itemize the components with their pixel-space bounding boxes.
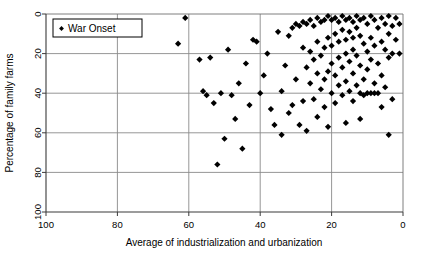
data-point-marker: [332, 100, 338, 106]
data-point-marker: [321, 76, 327, 82]
y-tick-label: 40: [32, 88, 43, 99]
data-point-marker: [353, 82, 359, 88]
data-point-marker: [264, 51, 270, 57]
data-point-marker: [311, 56, 317, 62]
data-point-marker: [357, 62, 363, 68]
data-point-marker: [336, 82, 342, 88]
data-point-marker: [268, 106, 274, 112]
x-tick-label: 0: [400, 219, 405, 230]
data-point-marker: [329, 60, 335, 66]
data-point-marker: [343, 120, 349, 126]
data-point-marker: [314, 15, 320, 21]
data-point-marker: [243, 60, 249, 66]
y-tick-label: 0: [32, 11, 43, 16]
data-point-marker: [282, 62, 288, 68]
data-point-marker: [246, 102, 252, 108]
data-points: [175, 13, 403, 168]
data-point-marker: [361, 76, 367, 82]
y-tick-label: 60: [32, 128, 43, 139]
data-point-marker: [339, 27, 345, 33]
chart-legend: War Onset: [53, 19, 142, 37]
data-point-marker: [361, 41, 367, 47]
plot-frame: [46, 14, 403, 212]
data-point-marker: [386, 54, 392, 60]
x-axis-title: Average of industrialization and urbaniz…: [126, 237, 323, 248]
grid-lines: [46, 14, 403, 212]
data-point-marker: [311, 23, 317, 29]
data-point-marker: [375, 60, 381, 66]
x-tick-label: 40: [255, 219, 266, 230]
data-point-marker: [214, 161, 220, 167]
data-point-marker: [332, 72, 338, 78]
data-point-marker: [325, 68, 331, 74]
data-point-marker: [343, 78, 349, 84]
data-point-marker: [357, 33, 363, 39]
data-point-marker: [378, 15, 384, 21]
data-point-marker: [343, 51, 349, 57]
data-point-marker: [378, 39, 384, 45]
data-point-marker: [371, 43, 377, 49]
data-point-marker: [293, 76, 299, 82]
data-point-marker: [346, 58, 352, 64]
data-point-marker: [389, 51, 395, 57]
y-tick-label: 80: [32, 167, 43, 178]
data-point-marker: [318, 86, 324, 92]
data-point-marker: [396, 51, 402, 57]
data-point-marker: [289, 25, 295, 31]
data-point-marker: [368, 35, 374, 41]
data-point-marker: [375, 25, 381, 31]
data-point-marker: [378, 72, 384, 78]
data-point-marker: [325, 124, 331, 130]
data-point-marker: [350, 70, 356, 76]
data-point-marker: [396, 21, 402, 27]
axis-tick-labels: 100806040200020406080100: [32, 11, 405, 230]
y-axis-title: Percentage of family farms: [4, 54, 15, 173]
data-point-marker: [307, 80, 313, 86]
data-point-marker: [196, 56, 202, 62]
data-point-marker: [336, 54, 342, 60]
data-point-marker: [364, 66, 370, 72]
data-point-marker: [382, 21, 388, 27]
data-point-marker: [371, 17, 377, 23]
data-point-marker: [207, 54, 213, 60]
data-point-marker: [364, 21, 370, 27]
data-point-marker: [389, 96, 395, 102]
data-point-marker: [211, 100, 217, 106]
data-point-marker: [311, 96, 317, 102]
data-point-marker: [232, 116, 238, 122]
data-point-marker: [321, 104, 327, 110]
data-point-marker: [296, 122, 302, 128]
data-point-marker: [350, 98, 356, 104]
data-point-marker: [286, 110, 292, 116]
data-point-marker: [225, 47, 231, 53]
data-point-marker: [346, 29, 352, 35]
data-point-marker: [375, 90, 381, 96]
x-tick-label: 60: [184, 219, 195, 230]
data-point-marker: [289, 102, 295, 108]
data-point-marker: [236, 80, 242, 86]
data-point-marker: [271, 122, 277, 128]
data-point-marker: [353, 25, 359, 31]
data-point-marker: [386, 31, 392, 37]
data-point-marker: [314, 70, 320, 76]
data-point-marker: [314, 39, 320, 45]
data-point-marker: [182, 15, 188, 21]
data-point-marker: [300, 45, 306, 51]
data-point-marker: [257, 90, 263, 96]
data-point-marker: [371, 80, 377, 86]
data-point-marker: [336, 19, 342, 25]
data-point-marker: [300, 98, 306, 104]
data-point-marker: [357, 116, 363, 122]
data-point-marker: [378, 104, 384, 110]
data-point-marker: [329, 43, 335, 49]
data-point-marker: [350, 35, 356, 41]
legend-label: War Onset: [68, 23, 116, 34]
data-point-marker: [336, 39, 342, 45]
y-tick-label: 20: [32, 48, 43, 59]
data-point-marker: [325, 35, 331, 41]
data-point-marker: [393, 15, 399, 21]
data-point-marker: [175, 41, 181, 47]
data-point-marker: [332, 31, 338, 37]
data-point-marker: [304, 64, 310, 70]
x-tick-label: 20: [326, 219, 337, 230]
